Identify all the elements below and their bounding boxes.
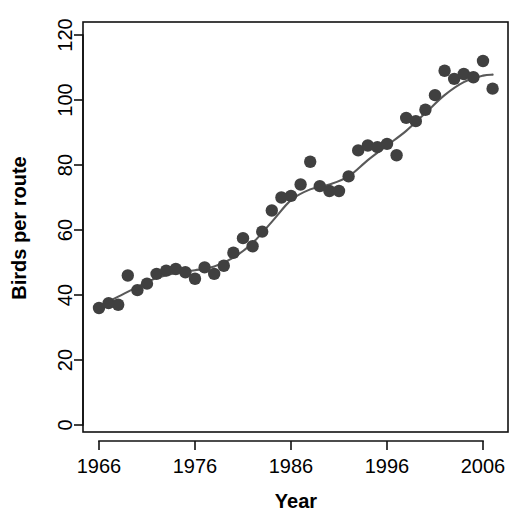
- data-point: [237, 232, 249, 244]
- data-point: [486, 82, 498, 94]
- y-tick-label: 80: [54, 154, 76, 176]
- y-tick-label: 0: [54, 419, 76, 430]
- y-axis-title: Birds per route: [8, 156, 30, 299]
- y-tick-label: 40: [54, 284, 76, 306]
- data-point: [227, 247, 239, 259]
- x-tick-label: 1976: [173, 455, 218, 477]
- data-point: [285, 190, 297, 202]
- data-point: [112, 299, 124, 311]
- data-point: [246, 240, 258, 252]
- data-point: [122, 269, 134, 281]
- data-point: [477, 55, 489, 67]
- x-tick-label: 1966: [77, 455, 122, 477]
- data-point: [256, 225, 268, 237]
- y-tick-label: 20: [54, 349, 76, 371]
- data-point: [342, 170, 354, 182]
- data-point: [304, 156, 316, 168]
- plot-frame: [83, 22, 508, 432]
- scatter-plot-svg: 020406080100120 19661976198619962006 Bir…: [0, 0, 524, 519]
- data-point: [189, 273, 201, 285]
- y-axis: 020406080100120: [54, 18, 83, 430]
- data-point: [333, 185, 345, 197]
- data-points-group: [93, 55, 499, 314]
- x-axis-title: Year: [275, 490, 317, 512]
- x-tick-label: 1986: [269, 455, 314, 477]
- data-point: [381, 138, 393, 150]
- data-point: [218, 260, 230, 272]
- data-point: [429, 89, 441, 101]
- data-point: [141, 277, 153, 289]
- data-point: [467, 71, 479, 83]
- x-tick-label: 2006: [461, 455, 506, 477]
- data-point: [410, 115, 422, 127]
- x-tick-label: 1996: [365, 455, 410, 477]
- y-tick-label: 60: [54, 219, 76, 241]
- data-point: [438, 65, 450, 77]
- data-point: [208, 268, 220, 280]
- x-axis: 19661976198619962006: [77, 441, 506, 477]
- data-point: [294, 178, 306, 190]
- data-point: [419, 104, 431, 116]
- y-tick-label: 120: [54, 18, 76, 51]
- chart-container: 020406080100120 19661976198619962006 Bir…: [0, 0, 524, 519]
- y-tick-label: 100: [54, 83, 76, 116]
- data-point: [390, 149, 402, 161]
- data-point: [266, 204, 278, 216]
